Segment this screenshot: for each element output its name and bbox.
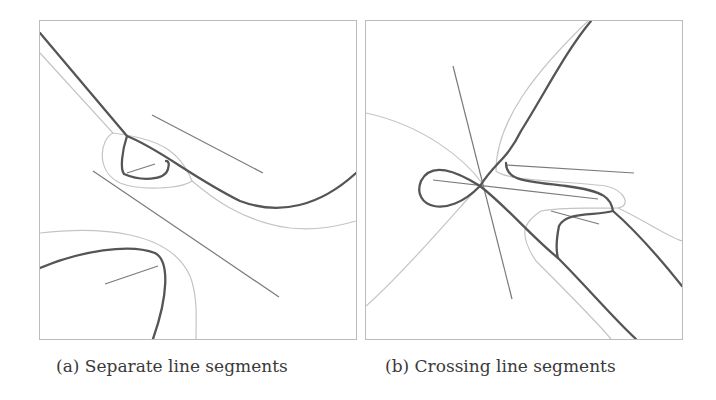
- thick-curve: [480, 186, 558, 258]
- panel-a-plot: [39, 20, 357, 340]
- panel-b-drawing: [366, 21, 682, 339]
- panel-a-drawing: [40, 21, 356, 339]
- segment: [127, 164, 155, 173]
- thick-curve: [613, 211, 682, 286]
- thin-curve: [366, 113, 482, 306]
- segment: [506, 165, 634, 173]
- caption-a: (a) Separate line segments: [56, 356, 288, 376]
- thick-curve: [419, 170, 480, 207]
- thin-curve: [40, 230, 196, 339]
- caption-b: (b) Crossing line segments: [385, 356, 616, 376]
- thick-curve: [40, 33, 356, 208]
- panel-b-plot: [365, 20, 683, 340]
- thick-curve: [40, 249, 165, 339]
- segment: [105, 266, 158, 284]
- thin-curve: [496, 21, 625, 339]
